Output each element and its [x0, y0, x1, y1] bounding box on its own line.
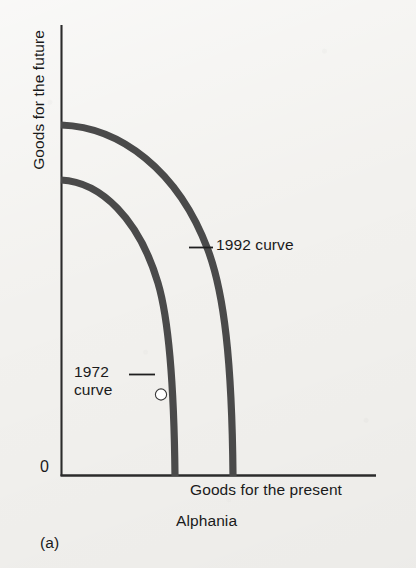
annotation-1972-curve-line2: curve: [74, 381, 112, 399]
ppf-figure-panel-a: Goods for the future 0 Goods for the pre…: [0, 0, 416, 568]
annotation-1972-curve: 1972curve: [74, 363, 112, 400]
figure-panel-label: (a): [40, 534, 59, 552]
point-marker-on-1972-curve: [155, 389, 166, 400]
origin-label: 0: [40, 458, 49, 477]
x-axis-label: Goods for the present: [190, 481, 342, 499]
curve-1992: [61, 125, 233, 476]
annotation-1972-curve-line1: 1972: [74, 363, 109, 380]
annotation-1992-curve: 1992 curve: [216, 236, 294, 254]
figure-caption: Alphania: [176, 512, 237, 530]
curve-1972: [61, 180, 175, 476]
y-axis-label: Goods for the future: [30, 30, 48, 170]
